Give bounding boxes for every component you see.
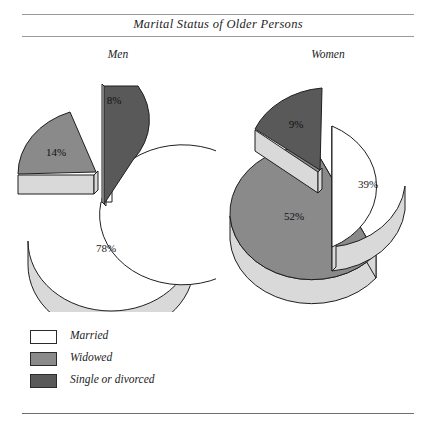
slice-label-women-widowed: 52% — [284, 210, 304, 222]
slice-label-women-single: 9% — [289, 118, 304, 130]
legend-swatch-married — [30, 330, 57, 344]
legend-label-single-or-divorced: Single or divorced — [70, 373, 155, 385]
legend-label-widowed: Widowed — [70, 351, 112, 363]
slice-label-men-single: 8% — [107, 94, 122, 106]
pie-chart-men: 78% 14% 8% — [6, 66, 216, 312]
slice-women-married — [332, 126, 405, 271]
legend-item-single-or-divorced: Single or divorced — [30, 372, 290, 394]
legend: Married Widowed Single or divorced — [30, 328, 290, 394]
slice-label-men-widowed: 14% — [46, 146, 66, 158]
pie-chart-women: 39% 52% 9% — [224, 66, 430, 312]
pie-men-svg: 78% 14% 8% — [6, 66, 216, 312]
legend-swatch-widowed — [30, 352, 57, 366]
page-title: Marital Status of Older Persons — [0, 17, 436, 32]
panel-heading-men: Men — [58, 48, 178, 60]
title-rule-top — [22, 14, 414, 15]
panel-heading-women: Women — [268, 48, 388, 60]
slice-label-women-married: 39% — [358, 178, 378, 190]
legend-label-married: Married — [70, 329, 108, 341]
legend-item-widowed: Widowed — [30, 350, 290, 372]
title-rule-bottom — [22, 36, 414, 37]
legend-item-married: Married — [30, 328, 290, 350]
figure-canvas: Marital Status of Older Persons Men Wome… — [0, 0, 436, 431]
pie-women-svg: 39% 52% 9% — [224, 66, 430, 312]
slice-label-men-married: 78% — [96, 242, 116, 254]
legend-swatch-single-or-divorced — [30, 374, 57, 388]
figure-rule-bottom — [22, 413, 414, 414]
